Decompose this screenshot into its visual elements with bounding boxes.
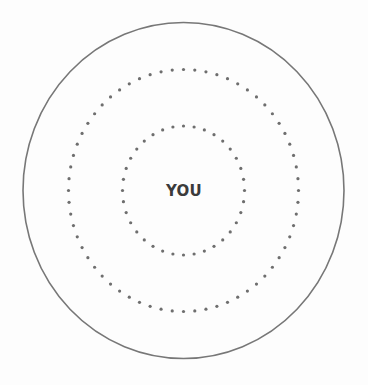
ring-dot (138, 301, 141, 304)
ring-dot (255, 95, 258, 98)
ring-dot (296, 201, 299, 204)
ring-dot (182, 124, 185, 127)
ring-dot (149, 73, 152, 76)
ring-dot (128, 82, 131, 85)
ring-dot (271, 266, 274, 269)
ring-dot (67, 201, 70, 204)
ring-dot (288, 143, 291, 146)
ring-dot (128, 296, 131, 299)
ring-dot (118, 290, 121, 293)
ring-dot (215, 73, 218, 76)
ring-dot (76, 235, 79, 238)
ring-dot (212, 245, 215, 248)
ring-dot (151, 245, 154, 248)
ring-dot (215, 305, 218, 308)
ring-dot (182, 68, 185, 71)
ring-dot (278, 122, 281, 125)
ring-dot (182, 253, 185, 256)
ring-dot (129, 157, 132, 160)
ring-dot (229, 147, 232, 150)
ring-dot (69, 213, 72, 216)
ring-dot (203, 250, 206, 253)
ring-dot (235, 157, 238, 160)
ring-dot (143, 139, 146, 142)
ring-dot (246, 290, 249, 293)
center-label-you: YOU (0, 182, 368, 200)
ring-dot (204, 70, 207, 73)
ring-dot (236, 82, 239, 85)
ring-dot (226, 301, 229, 304)
ring-dot (246, 88, 249, 91)
ring-dot (171, 252, 174, 255)
ring-dot (292, 224, 295, 227)
ring-dot (263, 103, 266, 106)
ring-dot (67, 177, 70, 180)
ring-dot (72, 154, 75, 157)
ring-dot (143, 238, 146, 241)
ring-dot (80, 132, 83, 135)
ring-dot (93, 266, 96, 269)
ring-dot (171, 125, 174, 128)
ring-dot (271, 112, 274, 115)
ring-dot (93, 112, 96, 115)
ring-dot (193, 68, 196, 71)
ring-dot (236, 296, 239, 299)
ring-dot (122, 200, 125, 203)
ring-dot (192, 252, 195, 255)
ring-dot (122, 178, 125, 181)
ring-dot (125, 167, 128, 170)
ring-dot (221, 238, 224, 241)
ring-dot (296, 177, 299, 180)
ring-dot (138, 77, 141, 80)
ring-dot (295, 213, 298, 216)
ring-dot (171, 68, 174, 71)
ring-dot (161, 128, 164, 131)
ring-dot (69, 165, 72, 168)
ring-dot (226, 77, 229, 80)
ring-dot (125, 211, 128, 214)
ring-dot (239, 167, 242, 170)
ring-dot (192, 125, 195, 128)
ring-dot (76, 143, 79, 146)
ring-dot (72, 224, 75, 227)
ring-dot (182, 310, 185, 313)
ring-dot (118, 88, 121, 91)
ring-dot (135, 147, 138, 150)
ring-dot (171, 309, 174, 312)
ring-dot (235, 221, 238, 224)
ring-dot (161, 250, 164, 253)
ring-dot (292, 154, 295, 157)
ring-dot (295, 165, 298, 168)
ring-dot (101, 103, 104, 106)
ring-dot (149, 305, 152, 308)
ring-dot (229, 230, 232, 233)
ring-dot (203, 128, 206, 131)
ring-dot (159, 70, 162, 73)
ring-dot (86, 256, 89, 259)
ring-dot (221, 139, 224, 142)
ring-dot (242, 178, 245, 181)
ring-dot (129, 221, 132, 224)
ring-dot (151, 133, 154, 136)
ring-dot (80, 246, 83, 249)
ring-dot (135, 230, 138, 233)
ring-dot (86, 122, 89, 125)
ring-dot (109, 95, 112, 98)
ring-dot (263, 274, 266, 277)
ring-dot (242, 200, 245, 203)
ring-dot (278, 256, 281, 259)
ring-dot (255, 282, 258, 285)
ring-dot (109, 282, 112, 285)
ring-dot (101, 274, 104, 277)
ring-dot (159, 308, 162, 311)
ring-dot (212, 133, 215, 136)
ring-dot (239, 211, 242, 214)
ring-dot (283, 246, 286, 249)
ring-dot (204, 308, 207, 311)
ring-dot (288, 235, 291, 238)
ring-dot (283, 132, 286, 135)
ring-dot (193, 309, 196, 312)
